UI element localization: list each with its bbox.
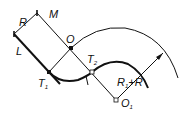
label-t2: T2: [87, 53, 98, 66]
label-m: M: [49, 8, 59, 20]
label-t1: T1: [38, 77, 48, 90]
label-r1-plus-r: R1+R: [117, 76, 143, 89]
line-o-t1: [49, 48, 71, 72]
label-l: L: [16, 45, 22, 57]
label-o: O: [66, 33, 75, 45]
point-t1: [47, 70, 51, 74]
curve-tick-1: [86, 76, 88, 85]
point-o: [69, 46, 73, 50]
label-o1: O1: [121, 97, 133, 110]
geometry-diagram: R M L O T1 T2 O1 R1+R: [0, 0, 183, 115]
line-m: [37, 13, 116, 100]
label-r: R: [19, 16, 27, 28]
point-o1: [114, 98, 118, 102]
point-t2: [90, 70, 94, 74]
